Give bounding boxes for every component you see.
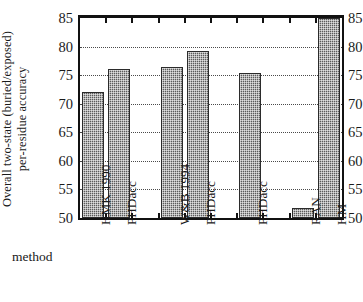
y-tick-label-right-65: 65 [348, 125, 363, 140]
y-tick-label-right-75: 75 [348, 68, 363, 83]
y-tick-label-left-50: 50 [44, 211, 73, 226]
x-tick-bottom-8 [289, 213, 291, 219]
x-tick-top-4 [184, 17, 186, 23]
y-tick-label-left-80: 80 [44, 40, 73, 55]
bar-chart-figure: Overall two-state (buried/exposed) per-r… [0, 0, 363, 302]
y-tick-label-right-60: 60 [348, 154, 363, 169]
x-tick-label-1: PHDacc [125, 181, 138, 225]
y-axis-title: Overall two-state (buried/exposed) per-r… [0, 8, 46, 230]
y-tick-label-left-70: 70 [44, 97, 73, 112]
x-tick-bottom-3 [158, 213, 160, 219]
y-tick-label-left-65: 65 [44, 125, 73, 140]
y-tick-label-left-60: 60 [44, 154, 73, 169]
y-tick-label-right-70: 70 [348, 97, 363, 112]
y-tick-label-left-85: 85 [44, 11, 73, 26]
x-tick-top-9 [315, 17, 317, 23]
bar-6 [318, 18, 340, 218]
x-tick-label-3: PHDacc [204, 181, 217, 225]
y-tick-label-right-55: 55 [348, 182, 363, 197]
y-axis-title-line2: per-residue accuracy [15, 8, 30, 230]
y-tick-label-left-55: 55 [44, 182, 73, 197]
x-tick-top-7 [262, 17, 264, 23]
x-tick-label-6: HM [335, 204, 348, 225]
y-tick-label-left-75: 75 [44, 68, 73, 83]
x-tick-label-5: RAN [309, 197, 322, 225]
x-tick-top-8 [289, 17, 291, 23]
gridline-80 [80, 47, 342, 48]
x-tick-top-6 [236, 17, 238, 23]
x-tick-top-5 [210, 17, 212, 23]
x-tick-top-2 [131, 17, 133, 23]
x-tick-label-2: W&B 1994 [178, 164, 191, 225]
x-tick-bottom-6 [236, 213, 238, 219]
y-tick-label-right-85: 85 [348, 11, 363, 26]
y-tick-label-right-80: 80 [348, 40, 363, 55]
x-tick-top-1 [105, 17, 107, 23]
x-axis-title: method [12, 249, 53, 265]
y-tick-label-right-50: 50 [348, 211, 363, 226]
x-tick-label-4: PHDacc [256, 181, 269, 225]
y-axis-title-line1: Overall two-state (buried/exposed) [0, 8, 15, 230]
x-tick-label-0: HMK 1990 [99, 165, 112, 225]
x-tick-top-3 [158, 17, 160, 23]
